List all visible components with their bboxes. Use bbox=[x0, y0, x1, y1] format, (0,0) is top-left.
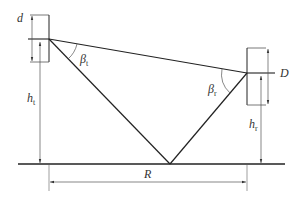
label-beta-r: βr bbox=[207, 82, 217, 98]
reflection-geometry-diagram: d D ht hr βt βr R bbox=[0, 0, 303, 205]
beta-r-arc bbox=[222, 69, 230, 93]
label-h-r: hr bbox=[249, 117, 258, 133]
label-h-t: ht bbox=[27, 91, 36, 107]
label-R: R bbox=[143, 167, 152, 181]
incident-ray bbox=[49, 39, 170, 164]
label-beta-t: βt bbox=[79, 52, 89, 68]
beta-t-arc bbox=[68, 44, 77, 59]
transmitter-antenna-box bbox=[28, 15, 49, 62]
direct-ray bbox=[49, 39, 247, 73]
label-D: D bbox=[279, 66, 289, 80]
label-d: d bbox=[17, 11, 24, 25]
